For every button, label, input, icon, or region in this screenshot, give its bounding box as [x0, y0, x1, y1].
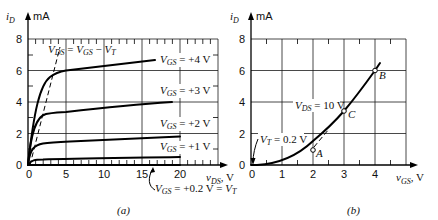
panel-b-ytick-2: 2: [239, 128, 245, 140]
panel-b-xtick-1: 1: [279, 168, 285, 180]
point-a-marker: [311, 148, 316, 153]
panel-b-xtick-3: 3: [341, 168, 347, 180]
panel-b-x-axis-label: vGS, V: [396, 171, 424, 186]
point-b-label: B: [379, 69, 386, 81]
vt-pointer-arrow-icon: [150, 167, 155, 173]
panel-a-caption: (a): [117, 204, 130, 217]
panel-a-y-unit: mA: [33, 10, 50, 22]
curve-vgs-4v: [28, 60, 155, 165]
saturation-locus-dashed-line: [30, 47, 60, 165]
panel-b-ytick-4: 4: [239, 96, 245, 108]
panel-b-ytick-6: 6: [239, 65, 245, 77]
panel-a-ytick-4: 4: [16, 96, 22, 108]
panel-a-ytick-8: 8: [16, 33, 22, 45]
panel-a-xtick-15: 15: [136, 168, 148, 180]
panel-b-y-axis-label: iD: [230, 10, 239, 25]
panel-a-x-arrow-icon: [220, 162, 228, 168]
label-vgs-0-2v-vt: VGS = +0.2 V = VT: [155, 182, 237, 196]
point-b-marker: [373, 68, 378, 73]
panel-b-xtick-2: 2: [310, 168, 316, 180]
panel-b-ytick-0: 0: [239, 159, 245, 171]
panel-b-xtick-4: 4: [372, 168, 378, 180]
panel-b-ytick-8: 8: [239, 33, 245, 45]
panel-b-x-arrow-icon: [410, 162, 418, 168]
panel-a-ytick-2: 2: [16, 128, 22, 140]
panel-a-xtick-20: 20: [174, 168, 186, 180]
locus-label: VDS = VGS − VT: [48, 43, 116, 57]
panel-b-y-unit: mA: [256, 10, 273, 22]
panel-a-ytick-0: 0: [16, 159, 22, 171]
point-c-label: C: [348, 108, 356, 120]
panel-b-y-arrow-icon: [248, 12, 254, 20]
panel-b-caption: (b): [347, 204, 360, 217]
panel-a-y-axis-label: iD: [6, 10, 15, 25]
panel-b-xtick-0: 0: [249, 168, 255, 180]
panel-a-ytick-6: 6: [16, 65, 22, 77]
panel-a-xtick-5: 5: [63, 168, 69, 180]
panel-a-xtick-10: 10: [98, 168, 110, 180]
panel-a-chart: 8 6 4 2 0 0 5 10 15 20 iD mA vDS, V VDS …: [6, 10, 237, 217]
figure: 8 6 4 2 0 0 5 10 15 20 iD mA vDS, V VDS …: [0, 0, 438, 220]
panel-a-y-arrow-icon: [25, 12, 31, 20]
point-a-label: A: [315, 147, 323, 159]
panel-b-chart: 8 6 4 2 0 0 1 2 3 4 iD mA vGS, V A B C V…: [230, 10, 424, 217]
panel-a-xtick-0: 0: [26, 168, 32, 180]
